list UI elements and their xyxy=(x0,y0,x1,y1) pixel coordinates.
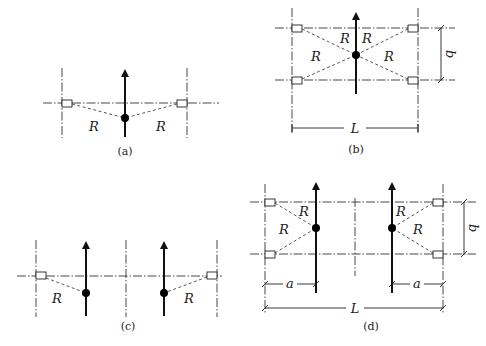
dimension-label-a: a xyxy=(286,276,294,291)
dimension-label-L: L xyxy=(350,121,360,136)
radius-label: R xyxy=(395,204,406,219)
figure-canvas: R R (a) R R R R b L (b) xyxy=(0,0,486,346)
load-point-dot xyxy=(352,51,360,59)
radius-label: R xyxy=(278,222,289,237)
support-box xyxy=(207,272,217,279)
support-box xyxy=(292,25,302,32)
radius-label: R xyxy=(361,31,372,46)
support-box xyxy=(408,25,418,32)
support-box xyxy=(265,251,275,258)
radius-label: R xyxy=(412,222,423,237)
radius-label: R xyxy=(183,291,194,306)
radius-line xyxy=(356,55,408,79)
panel-caption: (a) xyxy=(117,145,132,158)
dimension-label-b: b xyxy=(443,50,458,58)
support-box xyxy=(433,251,443,258)
radius-label: R xyxy=(339,31,350,46)
support-box xyxy=(408,77,418,84)
radius-label: R xyxy=(383,49,394,64)
support-box xyxy=(62,100,72,107)
support-box xyxy=(433,199,443,206)
support-box xyxy=(36,272,46,279)
support-box xyxy=(292,77,302,84)
panel-caption: (b) xyxy=(348,143,364,156)
panel-caption: (c) xyxy=(121,320,136,333)
panel-a: R R (a) xyxy=(43,68,219,158)
panel-b: R R R R b L (b) xyxy=(275,8,458,156)
dimension-label-a: a xyxy=(413,276,421,291)
radius-label: R xyxy=(155,119,166,134)
radius-label: R xyxy=(298,204,309,219)
panel-c: R R (c) xyxy=(17,240,222,333)
load-point-dot xyxy=(312,224,320,232)
radius-label: R xyxy=(310,49,321,64)
load-point-dot xyxy=(160,289,168,297)
load-point-dot xyxy=(388,224,396,232)
support-box xyxy=(177,100,187,107)
dimension-label-b: b xyxy=(466,224,481,232)
dimension-label-L: L xyxy=(350,301,360,316)
load-point-dot xyxy=(82,289,90,297)
radius-line xyxy=(72,104,125,118)
panel-caption: (d) xyxy=(363,320,379,333)
panel-d: R R R R b a a L (d) xyxy=(250,184,481,333)
radius-label: R xyxy=(51,291,62,306)
radius-line xyxy=(125,104,177,118)
radius-label: R xyxy=(88,119,99,134)
load-point-dot xyxy=(121,114,129,122)
support-box xyxy=(265,199,275,206)
